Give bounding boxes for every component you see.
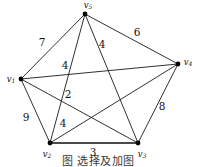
edge-weight-label: 4	[60, 117, 67, 129]
graph-vertex-v5	[83, 12, 88, 17]
edges-group	[21, 14, 178, 143]
graph-vertex-v3	[136, 141, 141, 146]
graph-edge	[50, 14, 85, 143]
figure-container: 764429438 v1v2v3v4v5 图 选择及加图	[0, 0, 197, 167]
vertex-label-v5: v5	[84, 0, 93, 10]
edge-weight-label: 6	[134, 26, 141, 38]
graph-vertex-v4	[176, 62, 181, 67]
graph-canvas: 764429438 v1v2v3v4v5	[0, 0, 197, 167]
edge-weight-label: 8	[159, 100, 166, 112]
graph-vertex-v1	[19, 77, 24, 82]
vertex-label-v4: v4	[184, 57, 193, 67]
figure-caption: 图 选择及加图	[0, 154, 197, 167]
graph-edge	[21, 14, 85, 79]
graph-edge	[85, 14, 138, 143]
edge-weight-label: 4	[62, 59, 69, 71]
edge-weight-label: 4	[99, 38, 106, 50]
edge-weight-label: 7	[39, 36, 46, 48]
edge-weight-label: 9	[23, 111, 30, 123]
graph-edge	[21, 79, 138, 143]
graph-vertex-v2	[48, 141, 53, 146]
nodes-group	[19, 12, 181, 146]
vertex-label-v1: v1	[7, 74, 16, 84]
edge-weight-label: 2	[65, 88, 72, 100]
graph-edge	[21, 64, 178, 79]
vertex-labels-group: v1v2v3v4v5	[7, 0, 193, 159]
